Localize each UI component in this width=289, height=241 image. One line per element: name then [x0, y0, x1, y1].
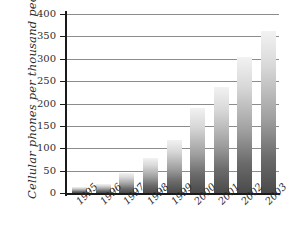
y-tick-label: 0	[24, 187, 56, 198]
y-tick-label: 350	[24, 30, 56, 41]
gridline	[67, 14, 279, 15]
bar-2000	[190, 108, 205, 193]
y-tick-label: 200	[24, 98, 56, 109]
bar-2003	[261, 31, 276, 193]
y-tick-label: 400	[24, 8, 56, 19]
y-axis-line	[65, 11, 67, 196]
bar-1999	[167, 140, 182, 193]
y-tick-label: 250	[24, 75, 56, 86]
gridline	[67, 36, 279, 37]
y-tick-label: 300	[24, 53, 56, 64]
bar-chart: Cellular phones per thousand people 4003…	[0, 0, 289, 241]
y-tick-label: 50	[24, 165, 56, 176]
y-tick-label: 150	[24, 120, 56, 131]
y-tick-label: 100	[24, 142, 56, 153]
bar-2002	[237, 57, 252, 193]
bar-2001	[214, 87, 229, 194]
y-axis-tick-labels: 400350300250200150100500	[20, 0, 56, 241]
plot-area	[67, 14, 279, 193]
